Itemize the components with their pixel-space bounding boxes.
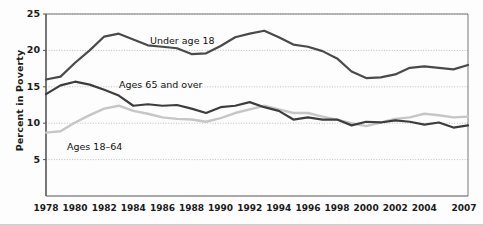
x-tick-label-1990: 1990 [205, 203, 237, 213]
series-lines [46, 31, 468, 133]
series-line-ages-65-and-over [46, 82, 468, 128]
y-tick-label-5: 5 [18, 154, 40, 165]
y-tick-label-10: 10 [18, 117, 40, 128]
ages-18-64-label: Ages 18–64 [67, 141, 122, 152]
x-tick-label-1984: 1984 [117, 203, 149, 213]
x-tick-label-1978: 1978 [30, 203, 62, 213]
x-tick-label-2004: 2004 [408, 203, 440, 213]
x-tick-label-1982: 1982 [88, 203, 120, 213]
x-tick-label-2007: 2007 [448, 203, 480, 213]
series-line-ages-18-64 [46, 106, 468, 133]
x-tick-label-1994: 1994 [263, 203, 295, 213]
x-tick-label-1980: 1980 [59, 203, 91, 213]
x-tick-label-1998: 1998 [321, 203, 353, 213]
x-tick-label-2000: 2000 [350, 203, 382, 213]
y-tick-label-25: 25 [18, 8, 40, 19]
bottom-divider [0, 224, 483, 225]
poverty-rate-line-chart: Percent in Poverty 510152025 19781980198… [0, 0, 483, 225]
series-line-under-age-18 [46, 31, 468, 80]
y-tick-label-20: 20 [18, 44, 40, 55]
under-18-label: Under age 18 [150, 35, 215, 46]
plot-canvas [0, 0, 483, 225]
x-tick-label-1986: 1986 [146, 203, 178, 213]
x-tick-label-1996: 1996 [292, 203, 324, 213]
y-tick-label-15: 15 [18, 81, 40, 92]
x-tick-label-1988: 1988 [176, 203, 208, 213]
x-tick-label-2002: 2002 [379, 203, 411, 213]
x-tick-label-1992: 1992 [234, 203, 266, 213]
ages-65-label: Ages 65 and over [119, 79, 203, 90]
